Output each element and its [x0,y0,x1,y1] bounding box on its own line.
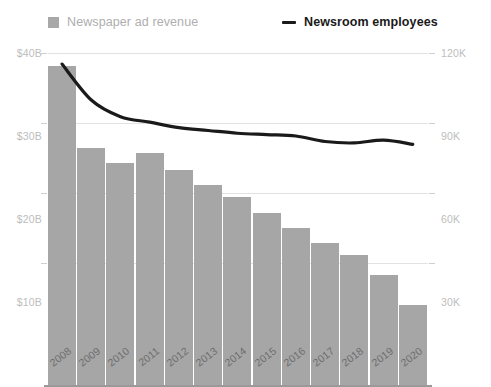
gridline-30b [48,123,428,124]
y-axis-left-tick-10B: $10B [6,297,42,308]
bar-2008[interactable] [48,66,76,385]
x-axis-baseline [44,385,432,387]
tick-left-30b [41,123,47,124]
tick-right-90k [429,123,435,124]
y-axis-left-tick-20B: $20B [6,214,42,225]
gridline-40b [48,53,428,54]
plot-area [48,53,428,333]
y-axis-right-tick-60K: 60K [441,214,460,225]
y-axis-left-tick-30B: $30B [6,131,42,142]
y-axis-right-tick-120K: 120K [441,48,466,59]
bar-2020[interactable] [399,305,427,386]
chart-legend: Newspaper ad revenue Newsroom employees [0,16,491,40]
legend-item-newsroom-employees[interactable]: Newsroom employees [282,16,438,29]
tick-left-10b [41,263,47,264]
legend-label-newspaper-ad-revenue: Newspaper ad revenue [67,16,198,29]
tick-right-120k [429,53,435,54]
tick-right-30k [429,263,435,264]
tick-left-20b [41,193,47,194]
y-axis-right-tick-30K: 30K [441,297,460,308]
square-swatch-icon [48,17,59,28]
line-path-newsroom-employees [62,64,413,144]
dash-line-icon [282,21,296,24]
legend-label-newsroom-employees: Newsroom employees [304,16,438,29]
tick-right-60k [429,193,435,194]
legend-item-newspaper-ad-revenue[interactable]: Newspaper ad revenue [48,16,198,29]
y-axis-left-tick-40B: $40B [6,48,42,59]
y-axis-right-tick-90K: 90K [441,131,460,142]
